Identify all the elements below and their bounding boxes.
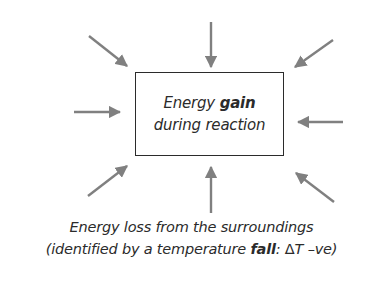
- caption-colon: :: [276, 241, 285, 257]
- caption-bold: fall: [250, 241, 275, 257]
- arrow-top-right-icon: [295, 40, 333, 67]
- arrow-bottom-left-icon: [88, 166, 127, 196]
- caption-prefix: (identified by a temperature: [46, 241, 251, 257]
- box-line-1: Energy gain: [163, 92, 255, 114]
- box-text-prefix: Energy: [163, 94, 219, 112]
- arrow-bottom-right-icon: [296, 173, 334, 202]
- caption-line-2: (identified by a temperature fall: ΔT –v…: [0, 241, 383, 257]
- delta-symbol: Δ: [285, 241, 295, 257]
- caption-suffix: T –ve): [295, 241, 338, 257]
- box-text-bold: gain: [220, 94, 256, 112]
- box-line-2: during reaction: [154, 114, 266, 136]
- arrow-top-left-icon: [89, 36, 127, 66]
- reaction-box: Energy gain during reaction: [135, 72, 284, 156]
- caption-line-1: Energy loss from the surroundings: [0, 219, 383, 235]
